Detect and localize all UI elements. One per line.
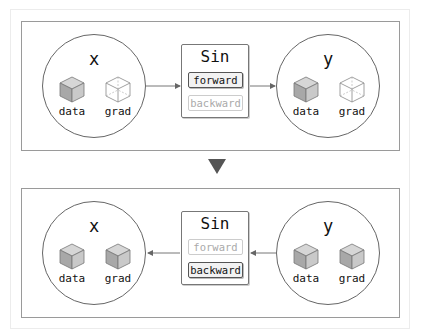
- variable-x-node: x data grad: [42, 34, 146, 138]
- grad-label: grad: [332, 272, 372, 285]
- backward-method-inactive: backward: [188, 95, 243, 111]
- function-sin-box: Sin forward backward: [181, 211, 249, 285]
- data-label: data: [286, 105, 326, 118]
- function-name: Sin: [182, 214, 248, 233]
- down-triangle-icon: [208, 159, 226, 174]
- variable-y-label: y: [277, 216, 379, 236]
- data-label: data: [52, 272, 92, 285]
- grad-cube-empty-icon: [338, 75, 366, 103]
- grad-cube-filled-icon: [338, 242, 366, 270]
- backward-pass-panel: x data grad Sin forward backward y data …: [21, 188, 400, 318]
- grad-label: grad: [98, 272, 138, 285]
- forward-pass-panel: x data grad Sin forward backward y data …: [21, 21, 400, 151]
- data-label: data: [52, 105, 92, 118]
- variable-x-node: x data grad: [42, 201, 146, 305]
- variable-y-node: y data grad: [276, 201, 380, 305]
- data-cube-filled-icon: [292, 242, 320, 270]
- function-name: Sin: [182, 47, 248, 66]
- grad-label: grad: [332, 105, 372, 118]
- forward-method-active: forward: [188, 72, 243, 88]
- grad-label: grad: [98, 105, 138, 118]
- variable-y-node: y data grad: [276, 34, 380, 138]
- data-cube-filled-icon: [58, 242, 86, 270]
- data-cube-filled-icon: [292, 75, 320, 103]
- data-cube-filled-icon: [58, 75, 86, 103]
- data-label: data: [286, 272, 326, 285]
- variable-x-label: x: [43, 49, 145, 69]
- variable-x-label: x: [43, 216, 145, 236]
- grad-cube-filled-icon: [104, 242, 132, 270]
- forward-method-inactive: forward: [188, 239, 243, 255]
- grad-cube-empty-icon: [104, 75, 132, 103]
- function-sin-box: Sin forward backward: [181, 44, 249, 118]
- variable-y-label: y: [277, 49, 379, 69]
- backward-method-active: backward: [188, 262, 243, 278]
